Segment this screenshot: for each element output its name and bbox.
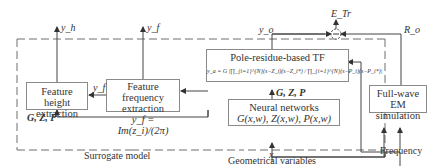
y-o-label: y_o xyxy=(259,24,273,35)
gzp-mid-label: G, Z, P xyxy=(276,87,305,98)
pole-residue-title: Pole-residue-based TF xyxy=(207,52,348,63)
feature-frequency-extraction-box: Feature frequency extraction y_f = Im(z_… xyxy=(106,79,180,112)
surrogate-model-label: Surrogate model xyxy=(84,150,150,161)
y-h-label: y_h xyxy=(61,22,75,33)
feature-frequency-line1: Feature frequency xyxy=(107,81,179,103)
feature-frequency-line2: extraction xyxy=(107,103,179,114)
full-wave-em-simulation-box: Full-wave EM simulation xyxy=(369,85,427,113)
gzp-left-label: G, Z, P xyxy=(27,112,56,123)
e-tr-label: E_Tr xyxy=(331,8,351,19)
geometrical-variables-label: Geometrical variables xyxy=(228,155,316,166)
neural-networks-line1: Neural networks xyxy=(229,102,339,113)
neural-networks-line2: G(x,w), Z(x,w), P(x,w) xyxy=(229,113,339,124)
feature-frequency-formula: y_f = Im(z_i)/(2π) xyxy=(107,114,179,136)
neural-networks-box: Neural networks G(x,w), Z(x,w), P(x,w) xyxy=(228,99,340,126)
pole-residue-tf-box: Pole-residue-based TF y_a = G |∏_{i=1}^{… xyxy=(206,49,349,82)
r-o-label: R_o xyxy=(404,24,420,35)
full-wave-em-line1: Full-wave EM xyxy=(370,88,426,110)
frequency-label: Frequency xyxy=(380,145,422,156)
feature-height-line1: Feature height xyxy=(27,86,87,108)
full-wave-em-line2: simulation xyxy=(370,110,426,121)
pole-residue-formula: y_a = G |∏_{i=1}^{N}(s−Z_i)(s−Z_i*) / ∏_… xyxy=(207,67,348,75)
y-f-top-label: y_f xyxy=(147,22,159,33)
feature-height-extraction-box: Feature height extraction xyxy=(26,82,88,110)
y-f-mid-label: y_f xyxy=(93,82,105,93)
